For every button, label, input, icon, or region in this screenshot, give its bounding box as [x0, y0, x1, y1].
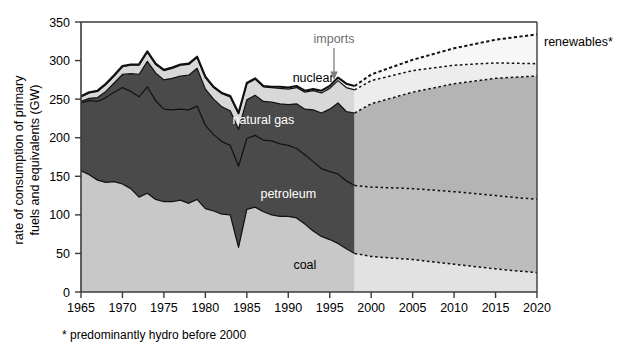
- renewables-label: renewables*: [544, 35, 613, 49]
- x-axis-ticks: 1965197019751980198519901995200020052010…: [67, 292, 551, 315]
- series-label-petroleum: petroleum: [260, 187, 316, 201]
- x-tick-label: 1995: [316, 301, 344, 315]
- y-tick-label: 350: [49, 16, 70, 30]
- series-label-nuclear: nuclear: [293, 71, 334, 85]
- y-axis-title-line2: fuels and equivalents (GW): [28, 85, 42, 236]
- imports-label: imports: [314, 32, 355, 46]
- x-tick-label: 1970: [109, 301, 137, 315]
- y-tick-label: 0: [63, 286, 70, 300]
- x-tick-label: 2010: [440, 301, 468, 315]
- y-tick-label: 300: [49, 54, 70, 68]
- x-tick-label: 2015: [482, 301, 510, 315]
- footnote-text: * predominantly hydro before 2000: [62, 328, 246, 342]
- y-tick-label: 100: [49, 208, 70, 222]
- y-axis-ticks: 050100150200250300350: [49, 16, 81, 300]
- x-tick-label: 1965: [67, 301, 95, 315]
- y-tick-label: 50: [56, 247, 70, 261]
- y-tick-label: 150: [49, 170, 70, 184]
- x-tick-label: 2005: [399, 301, 427, 315]
- chart-figure: 050100150200250300350 196519701975198019…: [0, 0, 625, 350]
- x-tick-label: 2000: [357, 301, 385, 315]
- x-tick-label: 1975: [150, 301, 178, 315]
- x-tick-label: 1980: [191, 301, 219, 315]
- x-tick-label: 2020: [523, 301, 551, 315]
- y-tick-label: 200: [49, 131, 70, 145]
- series-label-coal: coal: [293, 258, 316, 272]
- x-tick-label: 1985: [233, 301, 261, 315]
- series-label-natural-gas: natural gas: [232, 113, 294, 127]
- y-axis-title-line1: rate of consumption of primary: [12, 75, 26, 245]
- y-tick-label: 250: [49, 93, 70, 107]
- x-tick-label: 1990: [274, 301, 302, 315]
- energy-consumption-stacked-area-chart: 050100150200250300350 196519701975198019…: [0, 0, 625, 350]
